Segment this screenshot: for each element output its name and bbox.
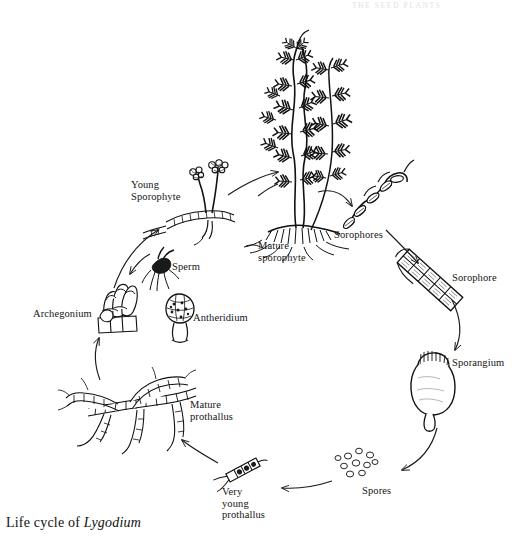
mature-prothallus-drawing [58, 367, 196, 454]
sorophores-drawing [342, 160, 414, 230]
label-sorophore: Sorophore [452, 272, 497, 284]
arrow-young-to-mature [228, 172, 278, 195]
life-cycle-illustration [0, 0, 525, 553]
sporangium-drawing [411, 351, 455, 431]
label-sporangium: Sporangium [452, 357, 504, 369]
caption-genus: Lygodium [84, 515, 141, 530]
arrow-sperm-to-archegonium [130, 254, 150, 274]
arrow-sporangium-to-spores [402, 428, 437, 470]
label-sperm: Sperm [172, 261, 200, 273]
label-mature-prothallus: Mature prothallus [190, 399, 233, 422]
arrow-archegonium-to-young [114, 230, 158, 288]
label-spores: Spores [362, 485, 391, 497]
arrow-veryyoung-to-matureprothallus [182, 440, 218, 463]
arrow-spores-to-veryyoung [282, 481, 332, 488]
spores-drawing [335, 448, 378, 477]
label-antheridium: Antheridium [193, 312, 248, 324]
figure-caption: Life cycle of Lygodium [6, 515, 141, 531]
label-sorophores: Sorophores [334, 229, 383, 241]
young-sporophyte-drawing [143, 160, 235, 245]
mature-sporophyte-drawing [244, 30, 353, 261]
label-mature-sporophyte: Mature sporophyte [258, 240, 306, 263]
archegonium-drawing [98, 284, 137, 333]
antheridium-drawing [166, 294, 194, 342]
label-very-young-prothallus: Very young prothallus [222, 486, 265, 521]
arrow-prothallus-to-archegonium [95, 338, 100, 380]
figure-canvas: THE SEED PLANTS [0, 0, 525, 553]
label-young-sporophyte: Young Sporophyte [131, 179, 180, 202]
caption-prefix: Life cycle of [6, 515, 84, 530]
label-archegonium: Archegonium [33, 308, 92, 320]
